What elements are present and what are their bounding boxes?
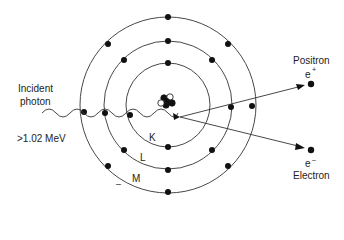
incident-label-line1: Incident bbox=[18, 84, 53, 94]
electron-label: Electron bbox=[293, 171, 330, 181]
nucleus bbox=[158, 94, 175, 108]
photon-arrowhead bbox=[173, 113, 180, 120]
electron-symbol: e bbox=[305, 159, 311, 169]
stray-dash-mark: – bbox=[116, 180, 121, 189]
photon-energy-label: >1.02 MeV bbox=[17, 134, 66, 144]
electron-track bbox=[180, 117, 302, 147]
incident-photon-wave bbox=[42, 109, 178, 117]
shell-label-l: L bbox=[140, 153, 146, 163]
positron-symbol: e bbox=[305, 70, 311, 80]
positron-dot bbox=[308, 81, 314, 87]
electron-charge: – bbox=[312, 156, 316, 163]
positron-charge: + bbox=[312, 66, 316, 73]
positron-track bbox=[180, 86, 302, 117]
shell-label-m: M bbox=[132, 174, 140, 184]
incident-label-line2: photon bbox=[20, 97, 51, 107]
electron-dot bbox=[308, 147, 314, 153]
positron-label: Positron bbox=[293, 56, 330, 66]
electron-arrowhead bbox=[295, 143, 305, 150]
positron-arrowhead bbox=[296, 84, 305, 90]
shell-label-k: K bbox=[149, 133, 156, 143]
